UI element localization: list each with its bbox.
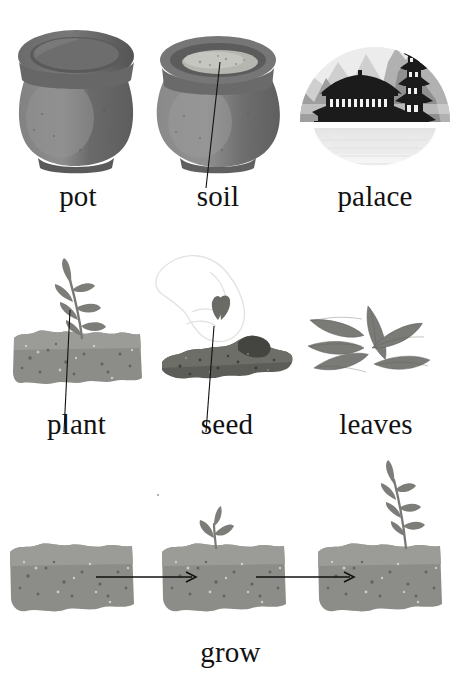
vocab-row-1: pot [0,0,461,222]
clay-pot-icon [8,18,148,176]
illustration-plant [8,250,153,400]
illustration-pot [8,18,148,176]
growth-sequence-icon [0,462,461,637]
illustration-soil [148,18,288,176]
label-grow: grow [0,638,461,667]
illustration-palace [292,4,458,176]
label-palace: palace [292,182,458,211]
vocab-row-3: grow [0,462,461,679]
plant-leader-line [8,250,153,400]
illustration-leaves [300,290,445,400]
soil-leader-line [148,18,288,176]
label-pot: pot [8,182,148,211]
illustration-grow [0,462,461,637]
label-plant: plant [4,410,149,439]
palace-icon [292,4,458,176]
illustration-seed [152,250,302,400]
leaves-icon [300,290,445,400]
vocab-row-2: plant [0,230,461,460]
vocabulary-sheet: pot [0,0,461,679]
stray-speck [157,494,159,496]
label-soil: soil [148,182,288,211]
grow-stage-3 [318,460,442,611]
grow-stage-2 [162,506,286,611]
seed-leader-line [152,250,302,400]
label-leaves: leaves [300,410,452,439]
label-seed: seed [152,410,302,439]
